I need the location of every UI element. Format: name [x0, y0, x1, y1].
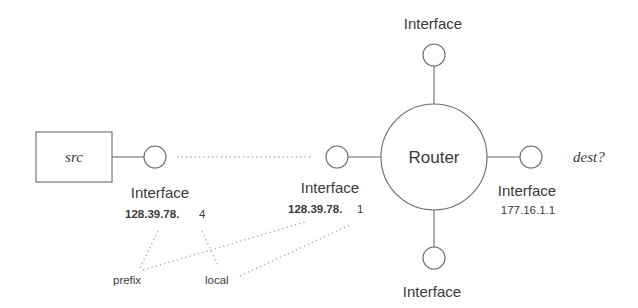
router-top-interface-label: Interface [404, 15, 462, 32]
router-left-interface[interactable]: Interface 128.39.78. 1 [288, 146, 363, 215]
local-annotation: local [205, 274, 229, 286]
router-left-interface-label: Interface [301, 179, 359, 196]
src-interface-prefix: 128.39.78. [125, 208, 179, 220]
network-diagram: src Interface 128.39.78. 4 Interface 128… [0, 0, 638, 308]
local-pointer-router [240, 224, 352, 276]
router-right-interface-address: 177.16.1.1 [501, 204, 555, 216]
prefix-pointer-router [143, 222, 305, 270]
router-left-interface-node[interactable] [326, 146, 348, 168]
router-left-interface-local: 1 [357, 203, 363, 215]
router-bottom-interface-label: Interface [403, 283, 461, 300]
source-label: src [65, 149, 83, 165]
src-interface-label: Interface [131, 184, 189, 201]
src-interface-local: 4 [199, 208, 206, 220]
router-right-interface-node[interactable] [520, 146, 542, 168]
destination-label: dest? [573, 149, 605, 165]
router-top-interface-node[interactable] [423, 44, 445, 66]
router-right-interface-label: Interface [498, 182, 556, 199]
src-interface-node[interactable] [144, 146, 166, 168]
prefix-annotation: prefix [113, 274, 141, 286]
router-bottom-interface[interactable]: Interface [403, 247, 461, 300]
source-host[interactable]: src [36, 132, 112, 182]
router[interactable]: Router [381, 104, 487, 210]
router-top-interface[interactable]: Interface [404, 15, 462, 66]
router-left-interface-prefix: 128.39.78. [288, 203, 342, 215]
router-label: Router [408, 148, 459, 167]
router-bottom-interface-node[interactable] [423, 247, 445, 269]
prefix-pointer-src [140, 231, 158, 268]
